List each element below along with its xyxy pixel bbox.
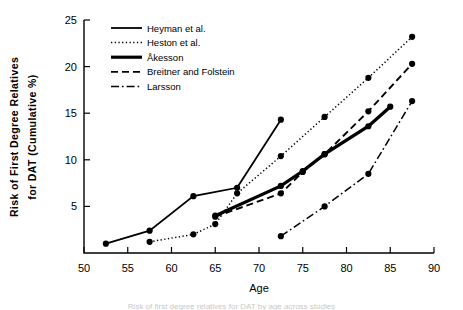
data-point — [365, 123, 371, 129]
legend-label: Heston et al. — [147, 37, 200, 48]
data-point — [212, 214, 218, 220]
data-point — [190, 193, 196, 199]
series-line — [106, 120, 281, 244]
series-heyman-et-al — [103, 117, 284, 247]
data-point — [322, 151, 328, 157]
axis-tick-labels: 505560657075808590510152025 — [65, 14, 440, 274]
legend-label: Åkesson — [147, 52, 183, 63]
legend-item: Åkesson — [111, 52, 183, 63]
legend-item: Heston et al. — [111, 37, 200, 48]
data-point — [278, 233, 284, 239]
data-point — [409, 98, 415, 104]
series-breitner-and-folstein — [212, 61, 415, 220]
y-axis-title-line1: Risk of First Degree Relatives — [8, 57, 20, 217]
figure-caption: Risk of first degree relatives for DAT b… — [0, 302, 463, 310]
data-point — [190, 231, 196, 237]
y-tick-label: 15 — [65, 107, 77, 119]
line-chart: 505560657075808590510152025 Age Risk of … — [0, 0, 463, 300]
data-point — [234, 190, 240, 196]
x-tick-label: 75 — [297, 262, 309, 274]
y-tick-label: 20 — [65, 61, 77, 73]
data-point — [278, 153, 284, 159]
series-larsson — [278, 98, 415, 239]
series-kesson — [212, 104, 393, 219]
data-point — [322, 114, 328, 120]
x-tick-label: 85 — [384, 262, 396, 274]
legend-item: Larsson — [111, 81, 181, 92]
x-tick-label: 65 — [209, 262, 221, 274]
axis-lines — [84, 20, 434, 253]
x-tick-label: 80 — [340, 262, 352, 274]
x-tick-label: 50 — [78, 262, 90, 274]
y-tick-label: 10 — [65, 154, 77, 166]
data-point — [365, 171, 371, 177]
legend-label: Larsson — [147, 81, 181, 92]
y-tick-label: 5 — [71, 200, 77, 212]
data-point — [147, 228, 153, 234]
data-point — [387, 104, 393, 110]
data-point — [322, 203, 328, 209]
data-point — [278, 183, 284, 189]
data-point — [365, 75, 371, 81]
x-tick-label: 60 — [165, 262, 177, 274]
chart-legend: Heyman et al.Heston et al.ÅkessonBreitne… — [111, 23, 235, 92]
x-tick-label: 70 — [253, 262, 265, 274]
legend-label: Heyman et al. — [147, 23, 206, 34]
data-point — [409, 61, 415, 67]
data-point — [103, 241, 109, 247]
data-point — [365, 108, 371, 114]
series-heston-et-al — [147, 34, 416, 245]
data-point — [212, 221, 218, 227]
x-tick-label: 55 — [122, 262, 134, 274]
data-point — [409, 34, 415, 40]
data-point — [278, 117, 284, 123]
legend-label: Breitner and Folstein — [147, 66, 235, 77]
data-point — [300, 169, 306, 175]
data-point — [234, 185, 240, 191]
data-point — [147, 239, 153, 245]
series-line — [281, 101, 412, 236]
axis-ticks — [84, 20, 434, 253]
legend-item: Heyman et al. — [111, 23, 206, 34]
y-axis-title-line2: for DAT (Cumulative %) — [26, 74, 38, 199]
y-tick-label: 25 — [65, 14, 77, 26]
x-axis-title: Age — [249, 282, 269, 294]
data-point — [278, 190, 284, 196]
series-line — [215, 107, 390, 216]
series-line — [215, 64, 412, 217]
legend-item: Breitner and Folstein — [111, 66, 235, 77]
x-tick-label: 90 — [428, 262, 440, 274]
